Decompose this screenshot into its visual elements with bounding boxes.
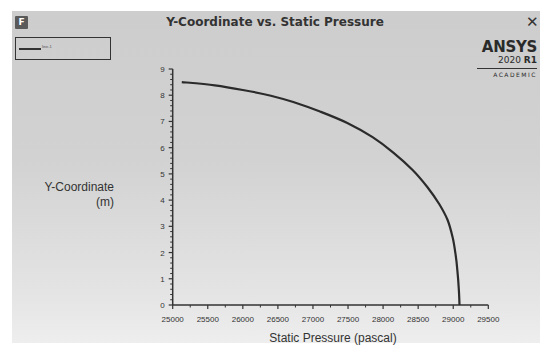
y-tick-label: 1 <box>160 275 165 284</box>
x-tick-label: 29000 <box>442 315 465 324</box>
y-tick-label: 0 <box>160 301 165 310</box>
x-tick-label: 25500 <box>197 315 220 324</box>
x-tick-label: 29500 <box>477 315 500 324</box>
x-tick-label: 25000 <box>162 315 185 324</box>
y-tick-label: 6 <box>160 144 165 153</box>
x-tick-label: 27000 <box>302 315 325 324</box>
y-tick-label: 4 <box>160 196 165 205</box>
y-tick-label: 2 <box>160 249 165 258</box>
y-tick-label: 8 <box>160 91 165 100</box>
y-tick-label: 3 <box>160 222 165 231</box>
y-tick-label: 9 <box>160 65 165 74</box>
x-tick-label: 28000 <box>372 315 395 324</box>
data-curve <box>182 82 460 305</box>
plot-area: 0123456789250002550026000265002700027500… <box>0 0 550 358</box>
x-tick-label: 26000 <box>232 315 255 324</box>
y-tick-label: 5 <box>160 170 165 179</box>
y-tick-label: 7 <box>160 117 165 126</box>
x-tick-label: 26500 <box>267 315 290 324</box>
x-tick-label: 27500 <box>337 315 360 324</box>
x-tick-label: 28500 <box>407 315 430 324</box>
